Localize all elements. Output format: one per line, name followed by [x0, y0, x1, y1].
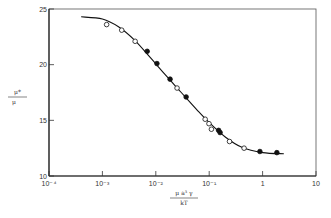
- x-tick-label: 10⁻⁴: [42, 180, 57, 187]
- x-axis-label: μ a³ γ kT: [170, 189, 198, 206]
- open-data-point: [207, 121, 212, 126]
- y-tick-label: 10: [39, 173, 47, 180]
- x-tick-label: 1: [261, 180, 265, 187]
- filled-data-point: [145, 49, 150, 54]
- x-label-numerator: μ a³ γ: [175, 189, 193, 197]
- open-data-point: [104, 22, 109, 27]
- x-tick-label: 10: [312, 180, 320, 187]
- open-data-point: [119, 28, 124, 33]
- y-label-numerator: μ*: [14, 88, 21, 96]
- axis-ticks: 10⁻⁴10⁻³10⁻²10⁻¹11010152025: [39, 6, 320, 188]
- open-data-point: [133, 39, 138, 44]
- open-data-point: [203, 117, 208, 122]
- y-tick-label: 15: [39, 117, 47, 124]
- x-label-denominator: kT: [180, 199, 188, 206]
- y-axis-label: μ* μ: [8, 88, 27, 106]
- y-label-denominator: μ: [12, 98, 16, 106]
- open-data-point: [175, 86, 180, 91]
- filled-data-point: [275, 150, 280, 155]
- x-tick-label: 10⁻³: [95, 180, 110, 187]
- filled-data-point: [155, 61, 160, 66]
- fitted-curve: [81, 17, 284, 154]
- x-tick-label: 10⁻²: [149, 180, 164, 187]
- y-tick-label: 20: [39, 61, 47, 68]
- data-points: [104, 22, 279, 155]
- chart-plot: 10⁻⁴10⁻³10⁻²10⁻¹11010152025 μ* μ μ a³ γ …: [0, 0, 331, 218]
- filled-data-point: [218, 130, 223, 135]
- y-tick-label: 25: [39, 6, 47, 13]
- open-data-point: [227, 139, 232, 144]
- open-data-point: [242, 146, 247, 151]
- filled-data-point: [168, 77, 173, 82]
- x-tick-label: 10⁻¹: [202, 180, 217, 187]
- filled-data-point: [258, 149, 263, 154]
- open-data-point: [209, 127, 214, 132]
- filled-data-point: [184, 95, 189, 100]
